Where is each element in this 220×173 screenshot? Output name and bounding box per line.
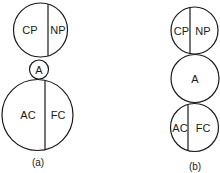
diagram-b-caption: (b) <box>189 161 201 172</box>
diagram-a-top-circle: CP NP <box>14 3 68 57</box>
diagram-b-label-a: A <box>191 73 199 85</box>
diagram-a-label-fc: FC <box>51 109 66 121</box>
diagram-b-label-cp: CP <box>174 25 189 37</box>
diagram-a-middle-circle: A <box>30 60 49 79</box>
diagram-b: CP NP A AC FC (b) <box>171 7 220 172</box>
diagram-a-bottom-circle: AC FC <box>2 80 73 151</box>
diagram-b-top-circle: CP NP <box>171 7 218 54</box>
diagram-b-label-np: NP <box>195 25 210 37</box>
diagram-a-label-cp: CP <box>22 24 37 36</box>
diagram-a-label-a: A <box>35 64 43 76</box>
diagram-b-label-ac: AC <box>172 122 187 134</box>
diagram-b-bottom-circle: AC FC <box>171 104 219 152</box>
diagram-a-label-np: NP <box>50 24 65 36</box>
diagram-a-label-ac: AC <box>20 109 35 121</box>
diagram-canvas: CP NP A AC FC (a) CP NP A AC <box>0 0 220 173</box>
diagram-a: CP NP A AC FC (a) <box>2 3 73 168</box>
diagram-a-caption: (a) <box>32 157 44 168</box>
diagram-b-label-fc: FC <box>196 122 211 134</box>
diagram-b-middle-circle: A <box>171 55 219 103</box>
